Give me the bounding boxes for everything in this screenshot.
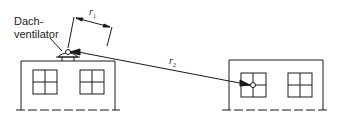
r1-label: r1: [89, 6, 96, 19]
ventilator-label-line2: ventilator: [14, 28, 59, 41]
ventilator-label-line1: Dach-: [14, 15, 59, 28]
r1-subscript: 1: [93, 13, 96, 19]
window-icon: [33, 70, 57, 94]
window-icon: [288, 73, 312, 97]
r1-dimension: [68, 17, 112, 48]
r2-distance-line: [70, 49, 250, 86]
measurement-point-icon: [251, 83, 256, 88]
source-building: [16, 38, 120, 110]
receiver-building: [222, 60, 328, 110]
source-building-walls: [21, 61, 115, 110]
r2-subscript: 2: [173, 62, 176, 68]
ventilator-label: Dach- ventilator: [14, 15, 59, 41]
r2-label: r2: [169, 55, 176, 68]
window-icon: [80, 70, 104, 94]
